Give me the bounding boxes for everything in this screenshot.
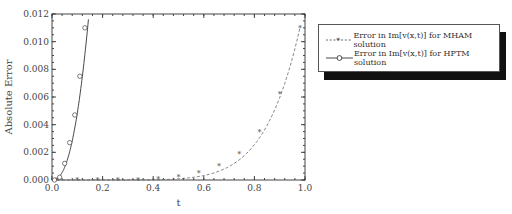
legend-label-hptm: Error in Im[v(x,t)] for HPTM solution xyxy=(354,49,499,67)
solid-circle-line-icon xyxy=(325,53,354,63)
hptm-circle-marker xyxy=(78,74,82,78)
mham-star-marker: * xyxy=(116,176,120,185)
y-tick-label: 0.012 xyxy=(23,9,49,19)
mham-star-marker: * xyxy=(96,176,100,185)
x-tick-label: 0.8 xyxy=(247,183,262,193)
y-tick-label: 0.002 xyxy=(23,147,49,157)
chart-figure: 0.00.20.40.60.81.00.0000.0020.0040.0060.… xyxy=(0,0,512,214)
hptm-circle-marker xyxy=(57,175,61,179)
plot-frame xyxy=(52,14,305,180)
legend-item-hptm: Error in Im[v(x,t)] for HPTM solution xyxy=(325,51,499,65)
y-axis-label: Absolute Error xyxy=(3,59,14,135)
mham-star-marker: * xyxy=(156,175,160,184)
mham-star-marker: * xyxy=(136,176,140,185)
legend-item-mham: * Error in Im[v(x,t)] for MHAM solution xyxy=(325,33,499,47)
mham-curve xyxy=(52,28,300,180)
x-tick-label: 0.4 xyxy=(146,183,161,193)
y-tick-label: 0.000 xyxy=(23,175,49,185)
y-tick-label: 0.006 xyxy=(23,92,49,102)
x-tick-label: 0.6 xyxy=(197,183,212,193)
mham-star-marker: * xyxy=(177,173,181,182)
hptm-circle-marker xyxy=(68,140,72,144)
mham-star-marker: * xyxy=(298,24,302,33)
mham-star-marker: * xyxy=(217,162,221,171)
legend-label-mham: Error in Im[v(x,t)] for MHAM solution xyxy=(353,31,499,49)
x-axis-label: t xyxy=(176,197,180,208)
mham-star-marker: * xyxy=(237,150,241,159)
hptm-circle-marker xyxy=(83,26,87,30)
mham-star-marker: * xyxy=(257,128,261,137)
hptm-curve xyxy=(52,19,88,180)
hptm-circle-marker xyxy=(62,161,66,165)
mham-star-marker: * xyxy=(197,169,201,178)
y-tick-label: 0.010 xyxy=(23,37,49,47)
svg-text:*: * xyxy=(336,36,340,45)
dashed-star-line-icon: * xyxy=(325,35,353,45)
legend: * Error in Im[v(x,t)] for MHAM solution … xyxy=(318,24,500,72)
y-tick-label: 0.008 xyxy=(23,64,49,74)
mham-star-marker: * xyxy=(278,90,282,99)
hptm-circle-marker xyxy=(73,113,77,117)
x-tick-label: 1.0 xyxy=(298,183,313,193)
hptm-circle-marker xyxy=(52,178,56,182)
mham-star-marker: * xyxy=(75,176,79,185)
y-tick-label: 0.004 xyxy=(23,120,49,130)
